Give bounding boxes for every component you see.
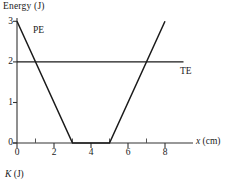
x-axis-title: x (cm): [196, 136, 221, 146]
x-tick-label-2: 2: [47, 147, 61, 157]
pe-series-line: [17, 21, 165, 143]
y-tick-label-2: 2: [3, 56, 13, 66]
y-tick-label-1: 1: [3, 97, 13, 107]
x-tick-label-8: 8: [158, 147, 172, 157]
y-tick-label-3: 3: [3, 16, 13, 26]
k-axis-title: K (J): [5, 169, 24, 179]
k-axis-title-unit: (J): [11, 169, 23, 179]
y-tick-label-0: 0: [3, 137, 13, 147]
x-tick-label-0: 0: [10, 147, 24, 157]
x-tick-label-4: 4: [84, 147, 98, 157]
te-series-label: TE: [180, 66, 192, 76]
pe-series-label: PE: [33, 25, 44, 35]
energy-vs-position-chart: Energy (J) 3 2 1 0 0 2 4 6 8 PE TE: [0, 0, 232, 188]
x-tick-label-6: 6: [121, 147, 135, 157]
x-axis-title-unit: (cm): [200, 136, 220, 146]
